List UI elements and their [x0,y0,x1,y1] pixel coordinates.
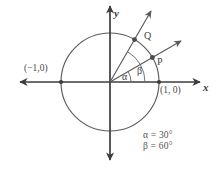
legend-beta-value: β = 60° [143,142,173,152]
figure-canvas [0,0,216,169]
beta-angle-label: β [137,66,142,76]
alpha-angle-label: α [122,72,127,82]
alpha-angle-arc [128,72,131,83]
ray-beta-60deg [110,11,151,82]
left-intercept-label: (−1,0) [24,64,48,74]
y-axis-label: y [114,8,119,19]
right-intercept-label: (1, 0) [160,86,181,96]
left-intercept-dot [59,80,63,84]
legend-alpha-value: α = 30° [143,131,173,141]
point-q-label: Q [144,31,151,41]
x-axis-label: x [203,82,209,93]
ray-alpha-30deg [110,41,181,82]
unit-circle-figure: y x (−1,0) (1, 0) Q P α β α = 30° β = 60… [0,0,216,169]
point-p-label: P [157,57,163,67]
right-intercept-dot [157,80,161,84]
point-q-marker [132,37,137,42]
point-p-marker [150,55,155,60]
